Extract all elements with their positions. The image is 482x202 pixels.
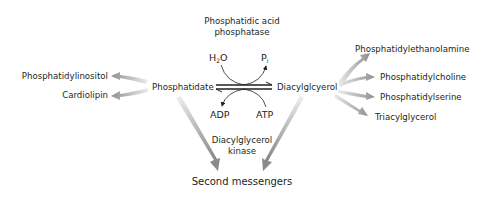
cofactor-adp: ADP (210, 110, 230, 120)
enzyme-top-line2: phosphatase (190, 28, 294, 37)
enzyme-bottom-line2: kinase (190, 147, 294, 156)
h2o-sub: 2 (216, 57, 220, 64)
enzyme-top-line1: Phosphatidic acid (190, 17, 294, 26)
enzyme-bottom-line1: Diacylglycerol (190, 136, 294, 145)
cofactor-pi: Pi (261, 53, 268, 63)
h2o-curve-arrow (221, 65, 244, 85)
atp-curve-arrow (244, 89, 266, 107)
arrow-to-cardiolipin (111, 88, 148, 100)
product-second-messengers: Second messengers (180, 177, 304, 187)
adp-curve-arrow (222, 89, 244, 106)
product-triacylglycerol: Triacylglycerol (375, 113, 436, 122)
h2o-o: O (220, 52, 227, 63)
arrow-to-phosphatidylserine (338, 90, 375, 100)
product-phosphatidylinositol: Phosphatidylinositol (22, 72, 108, 81)
equilibrium-arrows (216, 82, 272, 92)
arrow-phosphatidate-to-second-messengers (176, 96, 220, 171)
pi-p: P (261, 52, 267, 63)
enzyme-diacylglycerol-kinase: Diacylglycerol kinase (190, 136, 294, 155)
pi-curve-arrow (244, 66, 266, 85)
cofactor-h2o: H2O (209, 53, 227, 63)
arrow-diacylglycerol-to-second-messengers (262, 96, 304, 171)
compound-diacylglycerol: Diacylglcyerol (277, 83, 337, 92)
enzyme-phosphatidic-acid-phosphatase: Phosphatidic acid phosphatase (190, 17, 294, 36)
product-phosphatidylethanolamine: Phosphatidylethanolamine (355, 45, 469, 54)
arrow-to-phosphatidylinositol (111, 72, 148, 84)
product-cardiolipin: Cardiolipin (62, 91, 108, 100)
product-phosphatidylcholine: Phosphatidylcholine (380, 73, 466, 82)
compound-phosphatidate: Phosphatidate (152, 83, 214, 92)
product-phosphatidylserine: Phosphatidylserine (380, 93, 462, 102)
cofactor-atp: ATP (256, 110, 273, 120)
